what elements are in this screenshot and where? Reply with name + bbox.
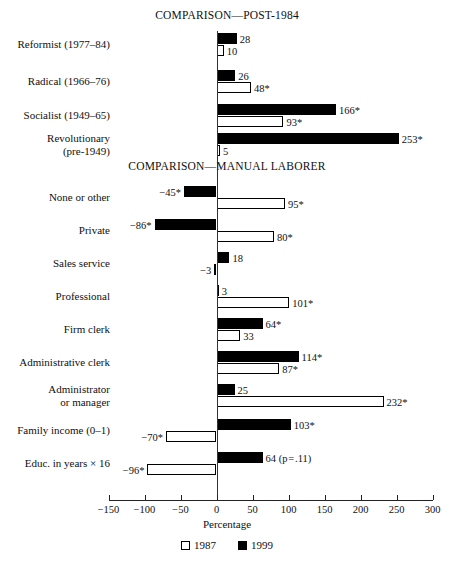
category-label: Revolutionary (pre-1949) bbox=[0, 132, 110, 157]
bar-value-label: 10 bbox=[227, 46, 238, 57]
bar-1987 bbox=[217, 297, 290, 308]
chart-figure: COMPARISON—POST-1984 COMPARISON—MANUAL L… bbox=[0, 0, 454, 568]
bar-1999 bbox=[217, 384, 235, 395]
x-axis-line bbox=[109, 500, 433, 501]
x-axis-tick bbox=[433, 495, 434, 500]
bar-1987 bbox=[166, 431, 216, 442]
bar-value-label: −96* bbox=[123, 465, 145, 476]
bar-1999 bbox=[217, 133, 399, 144]
legend-swatch-light bbox=[181, 541, 190, 550]
bar-1999 bbox=[155, 219, 217, 230]
x-axis-tick bbox=[253, 495, 254, 500]
bar-1987 bbox=[217, 82, 252, 93]
bar-value-label: 28 bbox=[240, 34, 251, 45]
bar-value-label: 64 (p = .11) bbox=[266, 453, 312, 464]
bar-1987 bbox=[217, 198, 285, 209]
bar-1999 bbox=[217, 70, 236, 81]
bar-1999 bbox=[217, 351, 299, 362]
category-label: Educ. in years × 16 bbox=[0, 457, 110, 470]
bar-value-label: −45* bbox=[159, 187, 181, 198]
bar-value-label: 3 bbox=[222, 286, 227, 297]
bar-1987 bbox=[217, 231, 275, 242]
bar-1999 bbox=[217, 33, 237, 44]
category-label: Reformist (1977–84) bbox=[0, 38, 110, 51]
bar-value-label: 232* bbox=[387, 397, 408, 408]
bar-1999 bbox=[217, 452, 263, 463]
x-axis-tick bbox=[217, 495, 218, 500]
category-label: Professional bbox=[0, 290, 110, 303]
chart-legend: 19871999 bbox=[0, 539, 454, 551]
category-label: Radical (1966–76) bbox=[0, 75, 110, 88]
bar-1987 bbox=[217, 45, 224, 56]
legend-label: 1987 bbox=[194, 539, 216, 551]
bar-1999 bbox=[217, 318, 263, 329]
bar-1987 bbox=[147, 464, 216, 475]
x-axis-tick bbox=[145, 495, 146, 500]
category-label: Administrator or manager bbox=[0, 383, 110, 408]
bar-value-label: 166* bbox=[339, 105, 360, 116]
bar-1999 bbox=[217, 252, 230, 263]
bar-value-label: 25 bbox=[238, 385, 249, 396]
x-axis-label: Percentage bbox=[0, 518, 454, 530]
category-label: Family income (0–1) bbox=[0, 424, 110, 437]
x-axis-tick bbox=[325, 495, 326, 500]
bar-value-label: 93* bbox=[286, 117, 302, 128]
bar-value-label: 18 bbox=[232, 253, 243, 264]
x-axis-tick bbox=[109, 495, 110, 500]
category-label: Firm clerk bbox=[0, 323, 110, 336]
bar-value-label: 114* bbox=[302, 352, 323, 363]
bar-value-label: 80* bbox=[277, 232, 293, 243]
bar-value-label: 48* bbox=[254, 83, 270, 94]
bar-1999 bbox=[217, 419, 291, 430]
bar-1987 bbox=[217, 330, 241, 341]
legend-item-1987: 1987 bbox=[181, 539, 216, 551]
bar-1999 bbox=[217, 104, 337, 115]
section-title-post-1984: COMPARISON—POST-1984 bbox=[0, 9, 454, 21]
x-axis-tick bbox=[181, 495, 182, 500]
bar-1999 bbox=[184, 186, 216, 197]
category-label: Socialist (1949–65) bbox=[0, 109, 110, 122]
bar-value-label: 26 bbox=[238, 71, 249, 82]
legend-swatch-dark bbox=[238, 541, 247, 550]
bar-value-label: −3 bbox=[200, 265, 211, 276]
legend-item-1999: 1999 bbox=[238, 539, 273, 551]
bar-value-label: 5 bbox=[223, 146, 228, 157]
bar-value-label: 103* bbox=[294, 420, 315, 431]
bar-value-label: 64* bbox=[266, 319, 282, 330]
category-label: None or other bbox=[0, 191, 110, 204]
bar-value-label: 87* bbox=[282, 364, 298, 375]
bar-1987 bbox=[217, 396, 384, 407]
x-axis-tick-label: 300 bbox=[411, 504, 454, 515]
x-axis-tick bbox=[289, 495, 290, 500]
bar-value-label: 33 bbox=[243, 331, 254, 342]
legend-label: 1999 bbox=[251, 539, 273, 551]
bar-value-label: −86* bbox=[130, 220, 152, 231]
bar-value-label: 253* bbox=[402, 134, 423, 145]
bar-1987 bbox=[217, 116, 284, 127]
bar-value-label: 101* bbox=[292, 298, 313, 309]
section-title-manual-laborer: COMPARISON—MANUAL LABORER bbox=[0, 160, 454, 172]
category-label: Administrative clerk bbox=[0, 356, 110, 369]
category-label: Private bbox=[0, 224, 110, 237]
x-axis-tick bbox=[397, 495, 398, 500]
bar-value-label: −70* bbox=[141, 432, 163, 443]
bar-value-label: 95* bbox=[288, 199, 304, 210]
category-label: Sales service bbox=[0, 257, 110, 270]
bar-1987 bbox=[217, 363, 280, 374]
x-axis-tick bbox=[361, 495, 362, 500]
zero-reference-line bbox=[217, 31, 218, 500]
